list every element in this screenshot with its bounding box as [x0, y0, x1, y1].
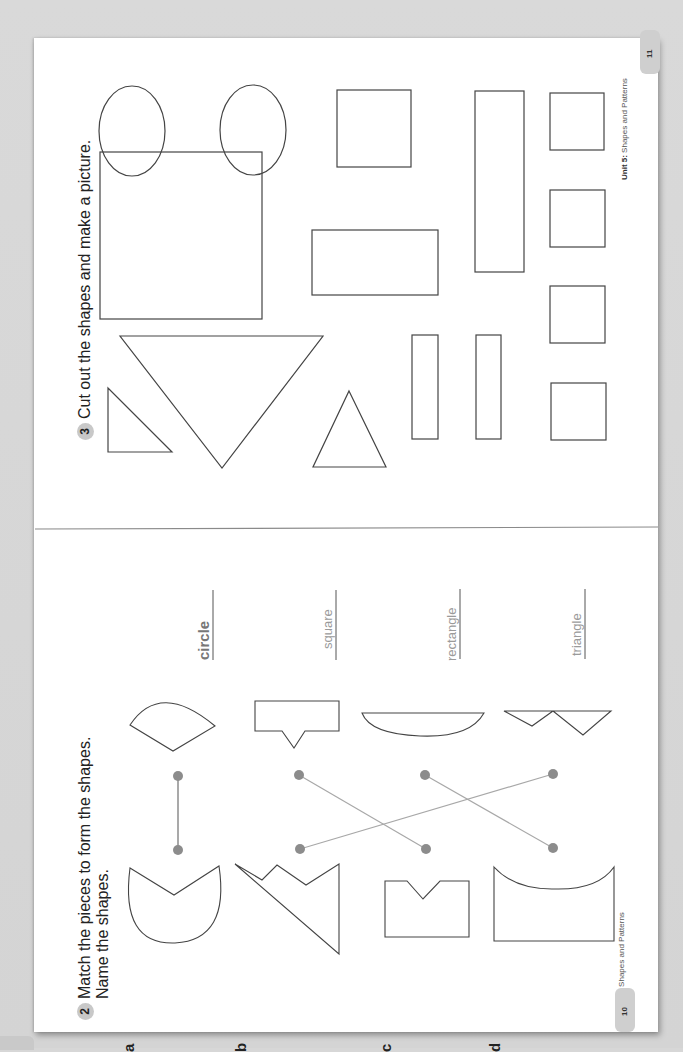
- exercise-3-instruction: 3Cut out the shapes and make a picture.: [76, 140, 94, 440]
- cutout-circle-2[interactable]: [220, 85, 286, 175]
- exercise-2-instruction: 2Match the pieces to form the shapes. Na…: [76, 737, 112, 1020]
- answer-c[interactable]: rectangle: [444, 608, 459, 661]
- cutout-square-3[interactable]: [550, 286, 605, 343]
- piece-curved-rectangle: [494, 867, 614, 941]
- cutout-large-square[interactable]: [100, 152, 262, 319]
- exercise-number-badge: 3: [77, 423, 94, 440]
- cutout-large-triangle[interactable]: [120, 336, 323, 468]
- piece-lens: [362, 713, 484, 736]
- match-lines: [178, 774, 553, 850]
- piece-rect-notch: [255, 701, 339, 748]
- cutout-rectangle[interactable]: [312, 230, 438, 295]
- piece-zigzag: [504, 711, 611, 735]
- answer-d[interactable]: triangle: [569, 613, 584, 656]
- cutout-square-4[interactable]: [551, 383, 606, 440]
- cutout-thin-rectangle-1[interactable]: [412, 335, 438, 439]
- row-letter-a: a: [120, 1044, 137, 1052]
- page-number-11: 11: [645, 50, 654, 58]
- cutout-long-rectangle[interactable]: [475, 91, 524, 272]
- bottom-pieces: [128, 864, 614, 954]
- cutout-right-triangle[interactable]: [108, 388, 172, 452]
- cutout-thin-rectangle-2[interactable]: [476, 335, 501, 439]
- cutout-shapes: [99, 85, 606, 468]
- answer-lines: [213, 589, 585, 660]
- answer-b[interactable]: square: [320, 609, 335, 649]
- cutout-square-2[interactable]: [550, 190, 605, 247]
- dot-top-d[interactable]: [548, 769, 558, 779]
- dot-top-c[interactable]: [420, 770, 430, 780]
- cutout-square-1[interactable]: [550, 93, 604, 150]
- answer-a[interactable]: circle: [195, 621, 212, 660]
- cutout-square-top[interactable]: [337, 90, 411, 167]
- dot-bottom-b[interactable]: [295, 844, 305, 854]
- row-letter-d: d: [486, 1043, 503, 1052]
- dot-bottom-a[interactable]: [173, 845, 183, 855]
- dot-bottom-c[interactable]: [421, 844, 431, 854]
- dot-top-a[interactable]: [173, 771, 183, 781]
- piece-sector: [130, 703, 215, 751]
- dot-top-b[interactable]: [294, 770, 304, 780]
- piece-notched-square: [385, 881, 469, 937]
- row-letter-c: c: [377, 1044, 394, 1052]
- page-number-10: 10: [620, 1007, 629, 1016]
- piece-pacman: [128, 866, 220, 943]
- gutter-line: [35, 527, 658, 529]
- cutout-triangle[interactable]: [313, 391, 386, 467]
- dot-bottom-d[interactable]: [548, 843, 558, 853]
- piece-jagged-triangle: [235, 864, 339, 954]
- row-letter-b: b: [232, 1043, 249, 1052]
- footer-right: Unit 5: Shapes and Patterns: [620, 78, 629, 180]
- cutout-circle-1[interactable]: [99, 86, 165, 176]
- top-pieces: [130, 701, 611, 751]
- match-dots: [173, 769, 558, 855]
- exercise-number-badge: 2: [77, 1003, 94, 1020]
